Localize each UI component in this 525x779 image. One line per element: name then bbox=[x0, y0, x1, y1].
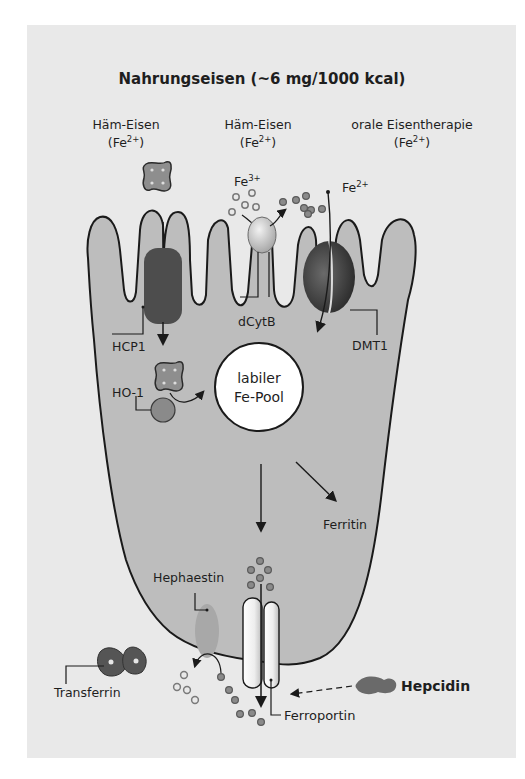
labile-iron-pool: labiler Fe-Pool bbox=[215, 343, 303, 431]
hcp1-label: HCP1 bbox=[112, 339, 146, 354]
fe3-ions bbox=[229, 190, 259, 215]
svg-text:Häm-Eisen: Häm-Eisen bbox=[224, 117, 291, 132]
svg-text:orale Eisentherapie: orale Eisentherapie bbox=[351, 117, 473, 132]
svg-text:Fe-Pool: Fe-Pool bbox=[234, 389, 284, 405]
hepcidin-peptide bbox=[292, 677, 396, 695]
svg-text:(Fe2+): (Fe2+) bbox=[394, 134, 431, 150]
iron-absorption-diagram: Nahrungseisen (~6 mg/1000 kcal) Häm-Eise… bbox=[0, 0, 525, 779]
ferritin-label: Ferritin bbox=[323, 517, 367, 532]
transferrin-protein bbox=[66, 647, 146, 684]
source-heme-2: Häm-Eisen (Fe2+) bbox=[224, 117, 291, 150]
dmt1-label: DMT1 bbox=[352, 338, 388, 353]
heme-molecule-icon bbox=[143, 162, 171, 191]
transferrin-label: Transferrin bbox=[53, 685, 121, 700]
fe3-label: Fe3+ bbox=[234, 173, 261, 189]
enterocyte-cell bbox=[88, 211, 416, 665]
fe2-ions bbox=[280, 193, 326, 218]
svg-text:labiler: labiler bbox=[237, 370, 281, 386]
svg-text:(Fe2+): (Fe2+) bbox=[108, 134, 145, 150]
dcytb-label: dCytB bbox=[238, 314, 276, 329]
svg-text:Häm-Eisen: Häm-Eisen bbox=[92, 117, 159, 132]
ho1-label: HO-1 bbox=[112, 385, 144, 400]
hepcidin-label: Hepcidin bbox=[401, 678, 470, 694]
ferroportin-transporter bbox=[243, 584, 281, 715]
svg-text:(Fe2+): (Fe2+) bbox=[240, 134, 277, 150]
fe3-extracellular-ions bbox=[174, 672, 199, 704]
source-oral-therapy: orale Eisentherapie (Fe2+) bbox=[351, 117, 473, 150]
hephaestin-label: Hephaestin bbox=[153, 570, 224, 585]
fe2-label: Fe2+ bbox=[342, 179, 369, 195]
figure-title: Nahrungseisen (~6 mg/1000 kcal) bbox=[119, 70, 406, 88]
ferroportin-label: Ferroportin bbox=[284, 708, 355, 723]
source-heme-1: Häm-Eisen (Fe2+) bbox=[92, 117, 159, 150]
